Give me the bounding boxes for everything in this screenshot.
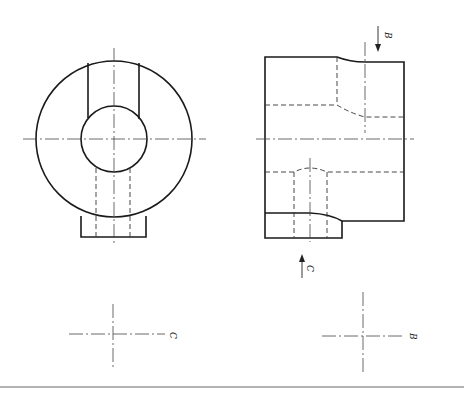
cross-marker-b: B xyxy=(322,292,418,374)
cross-label-b: B xyxy=(408,332,418,340)
section-arrow-b: B xyxy=(375,26,393,52)
technical-drawing: B C C B xyxy=(0,0,464,412)
front-view xyxy=(23,48,206,246)
label-c: C xyxy=(305,265,315,272)
cross-marker-c: C xyxy=(69,304,178,369)
label-b: B xyxy=(383,31,393,39)
section-arrow-c: C xyxy=(299,254,315,278)
cross-label-c: C xyxy=(168,332,178,339)
side-view xyxy=(256,42,414,242)
